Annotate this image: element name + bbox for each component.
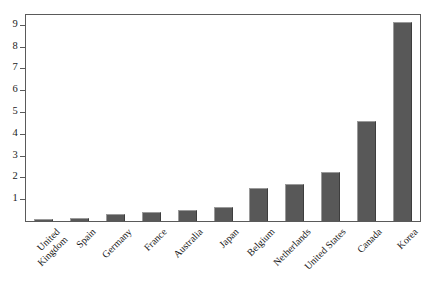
bar — [70, 218, 89, 221]
bars-container — [26, 15, 420, 221]
x-axis-label: Canada — [355, 226, 384, 255]
x-axis-label: UnitedKingdom — [27, 226, 69, 268]
x-axis-label-line1: Belgium — [244, 226, 276, 258]
bar — [393, 22, 412, 221]
y-axis-tick-label-text: 6 — [2, 84, 18, 94]
y-axis-tick-label: 6 — [0, 84, 18, 94]
y-axis-tick-label-text: 7 — [2, 62, 18, 72]
y-axis-tick-label-text: 4 — [2, 128, 18, 138]
x-axis-labels: UnitedKingdomSpainGermanyFranceAustralia… — [26, 222, 420, 284]
y-axis-tick-label: 4 — [0, 128, 18, 138]
bar — [106, 214, 125, 221]
x-axis-label: Spain — [74, 226, 98, 250]
bar — [142, 212, 161, 221]
y-axis-tick-label: 2 — [0, 171, 18, 181]
bar — [34, 219, 53, 221]
bar-chart: 123456789 UnitedKingdomSpainGermanyFranc… — [0, 0, 430, 284]
x-axis-label-line1: France — [142, 226, 169, 253]
x-axis-label: Belgium — [244, 226, 276, 258]
y-axis-tick-label: 5 — [0, 106, 18, 116]
bar — [214, 207, 233, 221]
y-axis-tick-label-text: 9 — [2, 19, 18, 29]
x-axis-label: Germany — [99, 226, 133, 260]
y-axis-tick-label: 7 — [0, 62, 18, 72]
x-axis-label-line1: Germany — [99, 226, 133, 260]
y-axis-tick-label: 9 — [0, 19, 18, 29]
y-axis-tick-label-text: 2 — [2, 171, 18, 181]
x-axis-label: Australia — [171, 226, 205, 260]
y-axis-tick-label: 8 — [0, 41, 18, 51]
bar — [285, 184, 304, 221]
x-axis-label-line1: Australia — [171, 226, 205, 260]
bar — [249, 188, 268, 221]
x-axis-label: Korea — [395, 226, 420, 251]
y-axis-tick-label-text: 5 — [2, 106, 18, 116]
x-axis-label-line1: Canada — [355, 226, 384, 255]
bar — [357, 121, 376, 221]
x-axis-label: France — [142, 226, 169, 253]
y-axis-tick-label-text: 8 — [2, 41, 18, 51]
x-axis-label-line1: Japan — [217, 226, 241, 250]
x-axis-label: Japan — [217, 226, 241, 250]
y-axis-tick-label: 3 — [0, 150, 18, 160]
x-axis-label-line1: Spain — [74, 226, 98, 250]
x-axis-label-line1: Korea — [395, 226, 420, 251]
y-axis-tick-label: 1 — [0, 193, 18, 203]
y-axis-tick-label-text: 3 — [2, 150, 18, 160]
bar — [178, 210, 197, 221]
y-axis-tick-label-text: 1 — [2, 193, 18, 203]
bar — [321, 172, 340, 221]
